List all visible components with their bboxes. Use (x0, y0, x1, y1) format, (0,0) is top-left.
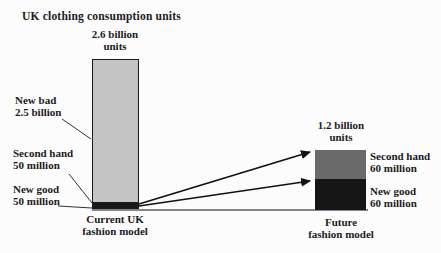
chart-title: UK clothing consumption units (22, 10, 181, 22)
label-second-hand-current: Second hand 50 million (13, 148, 73, 171)
leader-line-second-hand-current (69, 174, 92, 203)
arrow-to-new-good-icon (139, 181, 310, 206)
future-category-label: Future fashion model (291, 217, 391, 240)
label-new-good-future: New good 60 million (370, 186, 417, 209)
arrow-to-second-hand-icon (139, 152, 310, 204)
leader-line-new-good-current (58, 206, 92, 208)
future-total-label: 1.2 billion units (297, 120, 385, 143)
current-bar-bottom-strip (93, 202, 138, 208)
label-new-good-current: New good 50 million (13, 184, 60, 207)
current-bar (92, 59, 139, 209)
current-category-label: Current UK fashion model (65, 214, 165, 237)
chart-canvas: UK clothing consumption units 2.6 billio… (0, 0, 441, 253)
future-new-good-segment (315, 179, 366, 210)
label-new-bad: New bad 2.5 billion (15, 95, 61, 118)
label-second-hand-future: Second hand 60 million (370, 151, 430, 174)
future-bar (315, 150, 366, 210)
current-total-label: 2.6 billion units (71, 29, 159, 52)
leader-line-new-bad (62, 119, 91, 139)
future-second-hand-segment (315, 150, 366, 179)
